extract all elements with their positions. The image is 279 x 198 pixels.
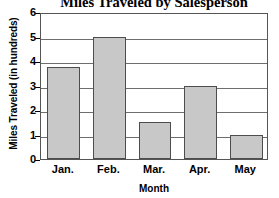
x-tick-label-jan: Jan.: [40, 163, 86, 175]
x-tick-label-apr: Apr.: [177, 163, 223, 175]
y-tick-mark-4: [35, 62, 40, 63]
x-tick-label-may: May: [222, 163, 268, 175]
y-tick-label-2: 2: [16, 104, 36, 116]
bar-apr: [184, 86, 217, 160]
y-tick-label-6: 6: [16, 6, 36, 18]
y-tick-label-5: 5: [16, 31, 36, 43]
y-tick-mark-1: [35, 136, 40, 137]
bar-feb: [93, 37, 126, 160]
x-tick-label-feb: Feb.: [86, 163, 132, 175]
y-tick-label-0: 0: [16, 153, 36, 165]
y-tick-mark-2: [35, 111, 40, 112]
bar-mar: [139, 122, 172, 159]
gridline-y-5: [41, 39, 267, 40]
y-tick-label-1: 1: [16, 129, 36, 141]
gridline-y-4: [41, 63, 267, 64]
chart-screenshot: Miles Traveled by Salesperson Miles Trav…: [0, 0, 279, 198]
y-tick-mark-6: [35, 13, 40, 14]
x-axis-title: Month: [40, 183, 268, 194]
plot-area: [40, 13, 268, 160]
bar-jan: [47, 67, 80, 159]
bar-may: [230, 135, 263, 160]
chart-title: Miles Traveled by Salesperson: [40, 0, 268, 10]
y-tick-mark-3: [35, 87, 40, 88]
y-tick-label-3: 3: [16, 80, 36, 92]
x-tick-label-mar: Mar.: [131, 163, 177, 175]
y-tick-mark-5: [35, 38, 40, 39]
y-tick-mark-0: [35, 160, 40, 161]
y-tick-label-4: 4: [16, 55, 36, 67]
